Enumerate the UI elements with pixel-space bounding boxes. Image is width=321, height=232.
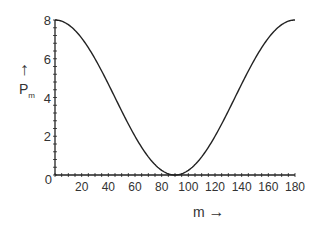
y-tick-label: 0	[45, 172, 52, 187]
y-axis-name: P	[19, 81, 28, 97]
x-axis-label: m →	[193, 204, 225, 220]
x-tick-label: 80	[155, 180, 169, 194]
data-curve	[55, 20, 295, 175]
x-axis-name: m	[193, 204, 205, 220]
y-axis-subscript: m	[28, 91, 35, 100]
x-tick-label: 60	[128, 180, 142, 194]
y-axis-arrow: ↑	[20, 60, 29, 78]
x-tick-label: 100	[178, 180, 198, 194]
x-tick-label: 40	[102, 180, 116, 194]
x-axis-arrow: →	[209, 203, 225, 220]
x-tick-label: 160	[258, 180, 278, 194]
chart-plot-area: 2040608010012014016018002468	[0, 0, 321, 232]
y-axis-label: Pm	[19, 82, 35, 100]
y-tick-label: 2	[44, 129, 51, 144]
y-tick-label: 8	[44, 13, 51, 28]
x-tick-label: 180	[285, 180, 305, 194]
y-tick-label: 6	[44, 52, 51, 67]
x-tick-label: 140	[232, 180, 252, 194]
x-tick-label: 20	[75, 180, 89, 194]
y-tick-label: 4	[44, 91, 51, 106]
x-tick-label: 120	[205, 180, 225, 194]
